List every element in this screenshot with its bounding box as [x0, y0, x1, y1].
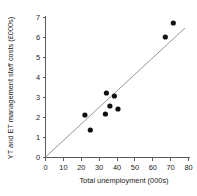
x-tick-label-20: 20: [77, 163, 85, 172]
x-axis: 0 10 20 30 40 50 60 70 80 Total unemploy…: [43, 158, 192, 186]
y-tick-label-1: 1: [36, 133, 40, 142]
x-tick-label-0: 0: [43, 163, 47, 172]
y-axis-tick-labels: 0 1 2 3 4 5 6 7: [36, 13, 40, 162]
x-tick-label-60: 60: [149, 163, 157, 172]
y-tick-label-2: 2: [36, 113, 40, 122]
data-points: [82, 20, 176, 132]
data-point: [82, 112, 87, 117]
trend-line: [46, 28, 186, 157]
x-axis-tick-labels: 0 10 20 30 40 50 60 70 80: [43, 163, 192, 172]
data-point: [104, 90, 109, 95]
data-point: [88, 127, 93, 132]
x-tick-label-40: 40: [113, 163, 121, 172]
y-tick-label-6: 6: [36, 33, 40, 42]
data-point: [163, 34, 168, 39]
data-point: [112, 93, 117, 98]
data-point: [107, 103, 112, 108]
x-tick-label-30: 30: [95, 163, 103, 172]
scatter-chart: 0 1 2 3 4 5 6 7 YT and ET management sta…: [0, 0, 197, 196]
data-point: [103, 111, 108, 116]
y-axis-title: YT and ET management staff costs (£000s): [6, 17, 15, 160]
y-tick-label-7: 7: [36, 13, 40, 22]
y-tick-label-4: 4: [36, 73, 40, 82]
x-tick-label-10: 10: [59, 163, 67, 172]
y-tick-label-3: 3: [36, 93, 40, 102]
chart-canvas: 0 1 2 3 4 5 6 7 YT and ET management sta…: [0, 0, 197, 196]
x-tick-label-50: 50: [131, 163, 139, 172]
data-point: [171, 20, 176, 25]
x-axis-title: Total unemployment (000s): [79, 176, 168, 185]
data-point: [115, 106, 120, 111]
y-tick-label-0: 0: [36, 153, 40, 162]
y-tick-label-5: 5: [36, 53, 40, 62]
x-tick-label-70: 70: [166, 163, 174, 172]
x-tick-label-80: 80: [184, 163, 192, 172]
y-axis: 0 1 2 3 4 5 6 7 YT and ET management sta…: [6, 13, 46, 162]
